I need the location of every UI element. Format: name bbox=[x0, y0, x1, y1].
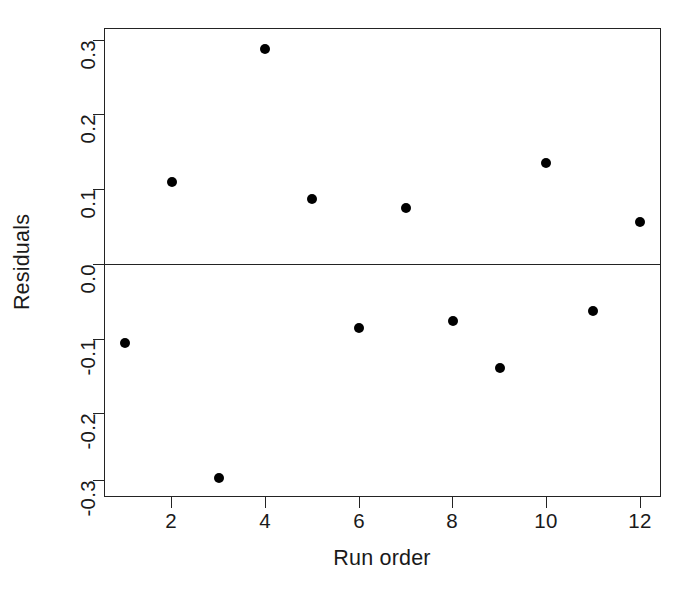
x-tick-label-6: 6 bbox=[353, 509, 365, 533]
y-tick-label--0.2: -0.2 bbox=[76, 413, 100, 450]
data-point bbox=[307, 194, 317, 204]
data-point bbox=[167, 177, 177, 187]
y-tick-label-0.1: 0.1 bbox=[76, 189, 100, 218]
y-tick-label-0.3: 0.3 bbox=[76, 40, 100, 69]
x-axis-title: Run order bbox=[333, 546, 430, 571]
data-point bbox=[120, 338, 130, 348]
y-tick-label--0.1: -0.1 bbox=[76, 339, 100, 376]
data-point bbox=[448, 316, 458, 326]
data-point bbox=[588, 306, 598, 316]
y-tick-label-0.0: 0.0 bbox=[76, 264, 100, 293]
y-tick-label-0.2: 0.2 bbox=[76, 114, 100, 143]
x-tick-mark-6 bbox=[359, 497, 360, 508]
data-point bbox=[214, 473, 224, 483]
y-axis-title: Residuals bbox=[10, 214, 35, 310]
x-tick-label-2: 2 bbox=[165, 509, 177, 533]
data-point bbox=[401, 203, 411, 213]
x-tick-label-12: 12 bbox=[628, 509, 651, 533]
x-tick-mark-2 bbox=[171, 497, 172, 508]
y-tick-label--0.3: -0.3 bbox=[76, 480, 100, 517]
x-tick-mark-8 bbox=[452, 497, 453, 508]
x-tick-mark-4 bbox=[265, 497, 266, 508]
x-tick-label-4: 4 bbox=[259, 509, 271, 533]
plot-panel-border bbox=[104, 28, 661, 497]
zero-reference-line bbox=[104, 264, 661, 265]
data-point bbox=[495, 363, 505, 373]
x-tick-mark-12 bbox=[640, 497, 641, 508]
x-tick-mark-10 bbox=[546, 497, 547, 508]
x-tick-label-8: 8 bbox=[446, 509, 458, 533]
data-point bbox=[635, 217, 645, 227]
residuals-scatter-plot: 0.3 0.2 0.1 0.0 -0.1 -0.2 -0.3 2 4 6 8 1… bbox=[0, 0, 691, 593]
x-tick-label-10: 10 bbox=[534, 509, 557, 533]
